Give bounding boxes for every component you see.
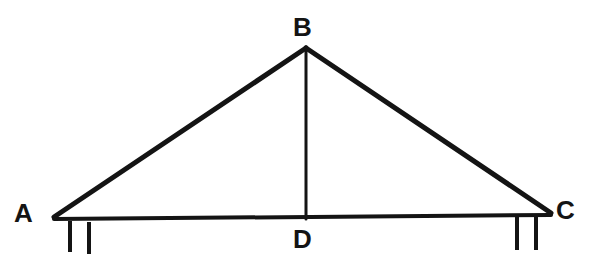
vertex-label-b: B	[293, 14, 312, 40]
segment-ab	[54, 48, 306, 217]
segment-ac-base	[54, 215, 551, 219]
vertex-label-d: D	[293, 226, 312, 252]
vertex-label-a: A	[14, 200, 33, 226]
vertex-label-c: C	[556, 197, 575, 223]
geometry-diagram: A B C D	[0, 0, 593, 267]
segment-bc	[306, 48, 551, 213]
